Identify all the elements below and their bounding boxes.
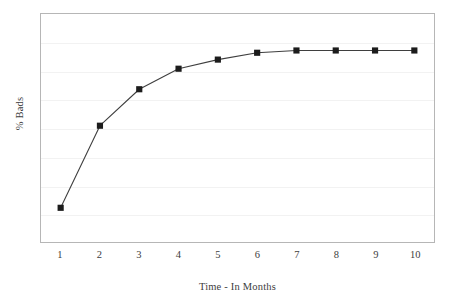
x-tick-label: 7 xyxy=(294,249,299,260)
series-markers xyxy=(58,47,418,210)
x-tick-label: 3 xyxy=(136,249,141,260)
x-tick-label: 4 xyxy=(176,249,181,260)
data-point-marker xyxy=(136,86,142,92)
data-point-marker xyxy=(58,205,64,211)
y-axis-title: % Bads xyxy=(14,84,25,144)
data-point-marker xyxy=(215,57,221,63)
x-tick-label: 1 xyxy=(57,249,62,260)
data-point-marker xyxy=(175,66,181,72)
data-point-marker xyxy=(254,50,260,56)
x-tick-label: 2 xyxy=(97,249,102,260)
data-point-marker xyxy=(372,47,378,53)
x-tick-label: 5 xyxy=(215,249,220,260)
data-series xyxy=(41,14,434,242)
data-point-marker xyxy=(97,123,103,129)
line-chart: % Bads 12345678910 Time - In Months xyxy=(0,0,458,308)
plot-area xyxy=(40,13,435,243)
data-point-marker xyxy=(333,47,339,53)
data-point-marker xyxy=(411,47,417,53)
x-tick-label: 9 xyxy=(373,249,378,260)
x-tick-label: 6 xyxy=(255,249,260,260)
x-tick-label: 10 xyxy=(410,249,421,260)
data-point-marker xyxy=(293,47,299,53)
x-axis-tick-labels: 12345678910 xyxy=(40,249,435,267)
x-tick-label: 8 xyxy=(334,249,339,260)
series-line xyxy=(61,50,415,207)
x-axis-title: Time - In Months xyxy=(40,281,435,292)
